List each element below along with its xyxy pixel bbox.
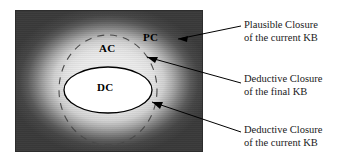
annotation-line-1: Plausible Closure [244,19,318,32]
annotation-line-1: Deductive Closure [244,124,322,137]
annotation-deductive-closure-current: Deductive Closure of the current KB [244,124,322,149]
region-label-pc: PC [143,31,158,43]
arrow-to-pc [178,26,241,42]
region-label-dc: DC [97,81,114,93]
annotation-line-1: Deductive Closure [244,73,322,86]
arrow-to-dc [152,102,241,132]
figure-container: AC PC DC Plausible Closure of the curren… [0,0,354,168]
annotation-line-2: of the current KB [244,32,318,45]
region-label-ac: AC [99,42,116,54]
annotation-line-2: of the final KB [244,86,322,99]
arrow-to-ac [147,57,241,83]
annotation-line-2: of the current KB [244,137,322,150]
annotation-deductive-closure-final: Deductive Closure of the final KB [244,73,322,98]
annotation-plausible-closure: Plausible Closure of the current KB [244,19,318,44]
